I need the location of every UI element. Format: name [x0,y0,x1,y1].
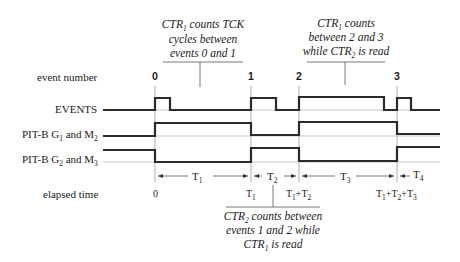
label-elapsed-time: elapsed time [43,188,98,200]
event-number-3: 3 [394,70,400,82]
label-event-number: event number [37,71,98,83]
interval-t1: T1 [192,170,203,185]
timing-diagram: event number EVENTS PIT-B G1 and M2 PIT-… [0,0,460,262]
elapsed-t1-t2: T1+T2 [286,188,312,202]
callout-tr-line2: between 2 and 3 [308,31,383,43]
event-number-2: 2 [296,70,302,82]
label-pit-g2-m3: PIT-B G2 and M3 [22,153,98,168]
callout-ctr1-counts-tck: CTR1 counts TCK cycles between events 0 … [162,18,246,87]
elapsed-0: 0 [153,188,158,199]
callout-b-line1: CTR2 counts between [224,210,323,225]
callout-b-line2: events 1 and 2 while [226,224,320,236]
interval-t4: T4 [413,168,424,183]
label-pit-g1-m2: PIT-B G1 and M2 [22,128,98,143]
callout-tl-line3: events 0 and 1 [170,47,236,59]
label-events: EVENTS [55,103,97,115]
callout-tl-line2: cycles between [169,33,238,46]
trace-pit-g1-m2 [103,122,440,136]
callout-ctr1-counts-2-3: CTR1 counts between 2 and 3 while CTR2 i… [303,17,390,85]
trace-pit-g2-m3 [103,147,440,162]
event-number-0: 0 [152,70,158,82]
callout-b-line3: CTR1 is read [244,238,303,253]
callout-tl-line1: CTR1 counts TCK [162,18,246,33]
callout-tr-line3: while CTR2 is read [303,45,390,60]
interval-t2: T2 [267,170,278,185]
elapsed-t1: T1 [246,188,256,202]
callout-tr-line1: CTR1 counts [317,17,375,32]
event-number-1: 1 [248,70,254,82]
trace-events [103,97,440,110]
interval-t3: T3 [340,170,351,185]
elapsed-t1-t2-t3: T1+T2+T3 [376,188,417,202]
